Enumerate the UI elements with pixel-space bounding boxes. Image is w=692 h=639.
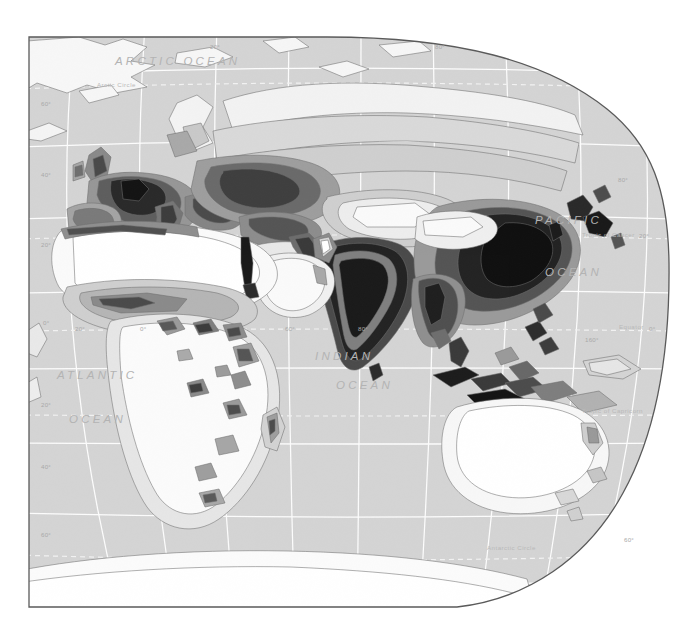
- map-canvas: [27, 31, 672, 615]
- world-map: ARCTIC OCEAN PACIFIC OCEAN INDIAN OCEAN …: [27, 31, 672, 615]
- clipped-header-sliver: [0, 0, 692, 8]
